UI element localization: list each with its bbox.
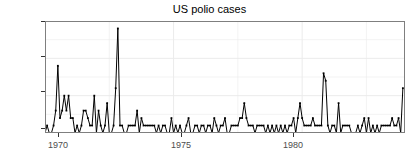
y-tick-mark-0 [41,128,45,129]
data-point [117,28,119,30]
x-tick-mark-1970 [58,133,59,137]
data-point [385,125,387,127]
data-point [213,117,215,119]
data-point [387,125,389,127]
data-point [151,125,153,127]
data-point [241,117,243,119]
data-point [312,117,314,119]
data-point [93,95,95,97]
data-point [222,125,224,127]
data-point [85,110,87,112]
data-point [314,125,316,127]
data-point [267,125,269,127]
data-point [164,125,166,127]
data-point [368,117,370,119]
data-point [76,125,78,127]
data-point [318,125,320,127]
data-point [171,117,173,119]
data-point [209,125,211,127]
data-point [104,125,106,127]
data-point [134,125,136,127]
data-point [115,87,117,89]
data-point [87,117,89,119]
data-point [188,117,190,119]
data-point [194,125,196,127]
data-point [235,125,237,127]
data-point [224,117,226,119]
data-point [145,125,147,127]
data-point [250,125,252,127]
data-point [153,125,155,127]
data-point [316,125,318,127]
data-point [338,102,340,104]
data-point [310,125,312,127]
data-point [220,125,222,127]
data-point [327,125,329,127]
data-point [61,110,63,112]
data-point [66,110,68,112]
data-point [68,95,70,97]
data-point [293,117,295,119]
data-point [258,125,260,127]
data-point [393,125,395,127]
data-point [233,125,235,127]
data-point [306,125,308,127]
data-point [158,125,160,127]
data-point [301,117,303,119]
data-point [391,117,393,119]
data-point [216,125,218,127]
data-point [237,125,239,127]
data-point [321,125,323,127]
y-tick-mark-10 [41,56,45,57]
x-tick-label-1980: 1980 [268,141,318,150]
data-point [333,125,335,127]
data-point [106,102,108,104]
data-point [271,125,273,127]
data-point [57,65,59,67]
data-point [147,125,149,127]
data-point [263,125,265,127]
data-point [83,110,85,112]
data-point [372,125,374,127]
data-point [346,125,348,127]
data-point [132,125,134,127]
data-point [297,117,299,119]
data-point [342,125,344,127]
data-point [256,125,258,127]
data-point [100,125,102,127]
data-point [175,125,177,127]
data-point [46,125,48,127]
data-point [89,125,91,127]
data-point [246,117,248,119]
data-point [98,110,100,112]
data-point [381,125,383,127]
data-point [59,117,61,119]
data-point [323,72,325,74]
polio-cases-chart-figure: US polio cases Counts per month 0 5 10 1… [0,0,419,161]
data-point [396,125,398,127]
data-point [231,125,233,127]
data-point [128,125,130,127]
y-tick-mark-5 [41,91,45,92]
data-point [136,110,138,112]
data-point [308,125,310,127]
data-point [91,125,93,127]
data-point [143,125,145,127]
data-point [261,125,263,127]
x-tick-label-1975: 1975 [156,141,206,150]
plot-svg [45,21,405,133]
data-point [53,125,55,127]
x-tick-label-1970: 1970 [33,141,83,150]
data-point [196,125,198,127]
data-point [113,125,115,127]
data-point [344,125,346,127]
data-point [203,125,205,127]
data-point [284,125,286,127]
data-point [389,125,391,127]
data-point [402,87,404,89]
data-point [149,125,151,127]
data-point [130,125,132,127]
data-point [288,125,290,127]
data-point [252,125,254,127]
data-point [72,117,74,119]
